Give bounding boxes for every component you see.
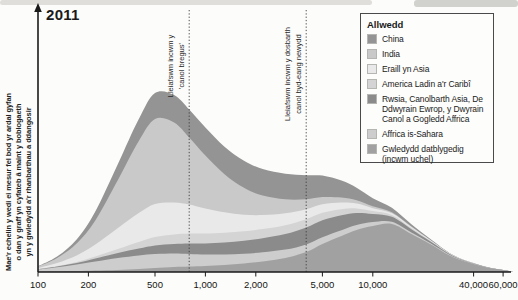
legend-swatch-icon	[367, 64, 377, 74]
chart-title-year: 2011	[46, 6, 80, 23]
x-tick-label: 1,000	[194, 279, 218, 290]
legend-swatch-icon	[367, 94, 377, 104]
x-tick-label: 40,000	[459, 279, 488, 290]
x-tick-label: 60,000	[489, 279, 518, 290]
y-axis-note: Mae'r echelin y wedi ei mesur fel bod yr…	[4, 82, 34, 282]
legend-item: China	[367, 34, 488, 44]
x-tick-label: 2,000	[244, 279, 268, 290]
legend-items: ChinaIndiaEraill yn AsiaAmerica Ladin a'…	[367, 34, 488, 164]
y-axis-note-line: o dan y graff yn cyfateb â maint y boblo…	[14, 82, 24, 282]
x-tick-label: 5,000	[311, 279, 335, 290]
legend-item: Gwledydd datblygedig (incwm uchel)	[367, 144, 488, 164]
legend-item: India	[367, 49, 488, 59]
threshold-label-line: Lleiafswm incwm y	[165, 13, 176, 119]
legend-item-label: Eraill yn Asia	[382, 64, 429, 74]
x-tick-label: 10,000	[358, 279, 387, 290]
threshold-label-line: canol byd-eang newydd	[293, 14, 304, 134]
legend-item-label: Rwsia, Canolbarth Asia, De Ddwyrain Ewro…	[382, 94, 488, 124]
y-axis-note-line: Mae'r echelin y wedi ei mesur fel bod yr…	[4, 82, 14, 282]
threshold-label-middle-class: Lleiafswm incwm y dosbarth canol byd-ean…	[282, 14, 304, 134]
legend-item: Eraill yn Asia	[367, 64, 488, 74]
legend-item-label: China	[382, 34, 404, 44]
x-tick-label: 500	[147, 279, 163, 290]
legend-item-label: India	[382, 49, 400, 59]
legend-swatch-icon	[367, 144, 377, 154]
legend-item-label: Gwledydd datblygedig (incwm uchel)	[382, 144, 488, 164]
x-axis-ticks: 1002005001,0002,0005,00010,00040,00060,0…	[30, 272, 518, 290]
legend-swatch-icon	[367, 79, 377, 89]
x-tick-label: 200	[80, 279, 96, 290]
legend-item-label: America Ladin a'r Caribî	[382, 79, 471, 89]
legend-swatch-icon	[367, 129, 377, 139]
legend-swatch-icon	[367, 49, 377, 59]
legend-item: Affrica is-Sahara	[367, 129, 488, 139]
legend-item-label: Affrica is-Sahara	[382, 129, 443, 139]
legend: Allwedd ChinaIndiaEraill yn AsiaAmerica …	[360, 13, 494, 163]
threshold-label-fragile-middle: Lleiafswm incwm y 'canol bregus'	[165, 13, 187, 119]
legend-swatch-icon	[367, 34, 377, 44]
legend-item: America Ladin a'r Caribî	[367, 79, 488, 89]
legend-item: Rwsia, Canolbarth Asia, De Ddwyrain Ewro…	[367, 94, 488, 124]
legend-title: Allwedd	[367, 19, 488, 30]
figure-income-distribution-2011: 1002005001,0002,0005,00010,00040,00060,0…	[0, 0, 518, 300]
threshold-label-line: 'canol bregus'	[176, 13, 187, 119]
y-axis-arrow-icon	[34, 3, 42, 12]
y-axis-note-line: yn y gwledydd a'r rhanbarthau a ddangosi…	[24, 82, 34, 282]
threshold-label-line: Lleiafswm incwm y dosbarth	[282, 14, 293, 134]
